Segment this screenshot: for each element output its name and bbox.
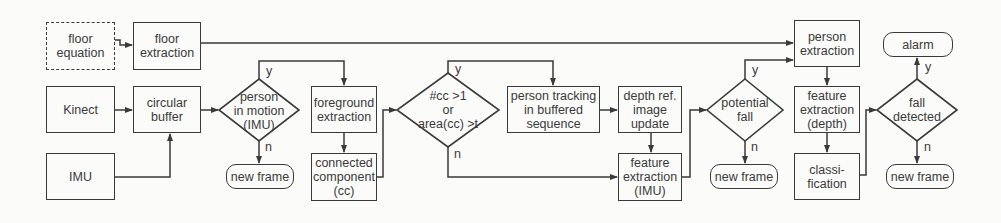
node-feature-extraction-imu: feature extraction (IMU) (618, 153, 682, 201)
branch-no-cc-condition: n (454, 147, 461, 161)
branch-yes-fall-detected: y (925, 60, 931, 74)
branch-yes-person-in-motion: y (266, 64, 272, 78)
label-potential-fall: potential fall (711, 94, 779, 126)
edge-classification-to-fall-detected (860, 110, 876, 175)
edge-floor-equation-to-floor-extraction (115, 40, 132, 45)
node-floor-extraction: floor extraction (133, 22, 201, 70)
node-new-frame-1: new frame (226, 164, 294, 189)
edge-feature-imu-to-potential-fall (682, 110, 706, 177)
node-foreground-extraction: foreground extraction (311, 86, 377, 133)
branch-yes-potential-fall: y (752, 63, 758, 77)
label-fall-detected: fall detected (881, 94, 953, 126)
edge-condition-no (448, 147, 617, 177)
node-floor-equation: floor equation (46, 22, 115, 70)
node-kinect: Kinect (46, 86, 115, 133)
node-classification: classi- fication (794, 153, 860, 200)
node-depth-ref-update: depth ref. image update (618, 86, 682, 133)
edge-imu-to-circular-buffer (115, 134, 170, 177)
node-new-frame-2: new frame (710, 164, 778, 189)
node-person-tracking: person tracking in buffered sequence (507, 86, 600, 133)
node-feature-extraction-depth: feature extraction (depth) (794, 86, 860, 133)
node-circular-buffer: circular buffer (133, 86, 201, 133)
branch-no-fall-detected: n (924, 140, 931, 154)
label-person-in-motion: person in motion (IMU) (221, 90, 297, 132)
branch-no-potential-fall: n (751, 140, 758, 154)
edge-cc-to-condition (376, 110, 396, 177)
edge-condition-yes (448, 61, 553, 85)
fall-detection-flowchart: floor equation floor extraction Kinect c… (0, 0, 1001, 223)
node-alarm: alarm (883, 32, 953, 57)
label-cc-condition: #cc >1 or area(cc) >t (405, 88, 491, 132)
branch-yes-cc-condition: y (455, 62, 461, 76)
node-person-extraction: person extraction (794, 20, 860, 67)
branch-no-person-in-motion: n (265, 140, 272, 154)
node-new-frame-3: new frame (886, 164, 954, 189)
node-connected-component: connected component (cc) (311, 153, 377, 201)
node-imu: IMU (46, 153, 115, 200)
